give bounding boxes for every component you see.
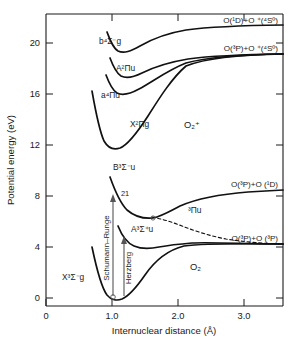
state-label-b4sigma-g: b⁴Σ⁻g: [99, 36, 121, 46]
band-label-herzberg: Herzberg: [124, 252, 133, 284]
y-tick-label-20: 20: [30, 38, 40, 48]
curve-a4pi-u: [106, 54, 283, 94]
schumann-runge-arrowhead: [110, 194, 116, 202]
asymptote-label-O3P-Oplus: O(³P)+O ⁺(⁴Sº): [224, 44, 279, 53]
region-label-o2: O₂: [190, 261, 201, 272]
potential-energy-diagram: 0 4 8 12 16 20 0 1.0 2.0 3.0 Internuclea…: [0, 0, 291, 349]
asymptote-labels-ion: O(¹D)+O ⁺(⁴Sº) O(³P)+O ⁺(⁴Sº): [223, 16, 278, 53]
band-labels: Schumann–Runge Herzberg: [102, 215, 133, 285]
x-tick-label-2: 2.0: [172, 311, 185, 321]
x-tick-label-1: 1.0: [106, 311, 119, 321]
state-label-a4pi-u: a⁴Πu: [101, 90, 120, 100]
x-tick-label-3: 3.0: [238, 311, 251, 321]
state-label-A3sigma-u: A³Σ⁺u: [131, 224, 154, 234]
x-axis-title: Internuclear distance (Å): [112, 325, 217, 336]
state-label-X2pi-g: X²Πg: [130, 119, 149, 129]
y-tick-label-8: 8: [35, 191, 40, 201]
curve-A2pi-u: [110, 54, 283, 77]
y-axis-ticks: [46, 43, 283, 298]
y-axis-title: Potential energy (eV): [5, 115, 16, 205]
asymptote-labels-neutral: O(³P)+O (¹D) O(³P)+O (³P): [231, 180, 278, 243]
plot-frame: [46, 14, 283, 306]
x-tick-labels: 0 1.0 2.0 3.0: [43, 311, 250, 321]
y-tick-labels: 0 4 8 12 16 20: [30, 38, 40, 303]
asymptote-label-O1D-Oplus: O(¹D)+O ⁺(⁴Sº): [223, 16, 278, 25]
band-label-schumann-runge: Schumann–Runge: [102, 215, 111, 281]
state-labels-ion: b⁴Σ⁻g A²Πu a⁴Πu X²Πg: [99, 36, 149, 129]
region-label-o2-plus: O₂⁺: [184, 119, 200, 130]
y-tick-label-0: 0: [35, 293, 40, 303]
asymptote-label-O3P-O3P: O(³P)+O (³P): [231, 234, 278, 243]
y-tick-label-12: 12: [30, 140, 40, 150]
vibrational-level-21: 21: [121, 189, 129, 198]
region-labels: O₂⁺ O₂: [184, 119, 201, 272]
state-label-X3sigma-g: X³Σ⁻g: [62, 272, 85, 282]
y-tick-label-4: 4: [35, 242, 40, 252]
state-label-A2pi-u: A²Πu: [116, 63, 135, 73]
x-tick-label-0: 0: [43, 311, 48, 321]
state-label-B3sigma-u: B³Σ⁻u: [113, 162, 136, 172]
curve-X3sigma-g: [92, 244, 283, 300]
asymptote-label-O3P-O1D: O(³P)+O (¹D): [231, 180, 278, 189]
state-label-3pi-u: ³Πu: [188, 205, 202, 215]
y-tick-label-16: 16: [30, 89, 40, 99]
